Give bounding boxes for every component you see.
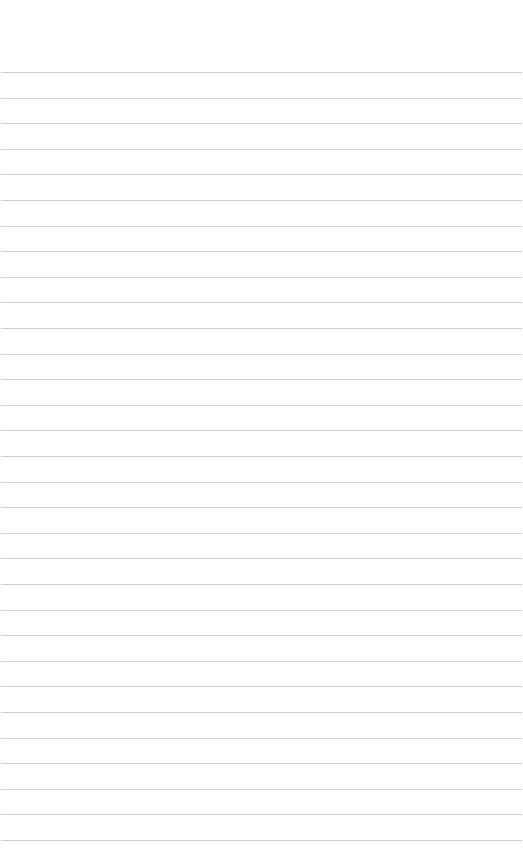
ruled-line (1, 72, 522, 73)
ruled-line (1, 763, 522, 764)
ruled-line (1, 814, 522, 815)
ruled-line (1, 149, 522, 150)
ruled-line (1, 789, 522, 790)
ruled-line (1, 482, 522, 483)
ruled-line (1, 661, 522, 662)
ruled-line (1, 405, 522, 406)
ruled-line (1, 610, 522, 611)
ruled-line (1, 226, 522, 227)
ruled-line (1, 277, 522, 278)
ruled-line (1, 430, 522, 431)
ruled-line (1, 200, 522, 201)
ruled-line (1, 251, 522, 252)
ruled-line (1, 328, 522, 329)
ruled-line (1, 174, 522, 175)
ruled-line (1, 840, 522, 841)
ruled-line (1, 712, 522, 713)
ruled-line (1, 686, 522, 687)
ruled-line (1, 533, 522, 534)
ruled-line (1, 507, 522, 508)
ruled-line (1, 558, 522, 559)
ruled-line (1, 738, 522, 739)
ruled-line (1, 635, 522, 636)
ruled-paper-page (0, 0, 523, 861)
ruled-line (1, 584, 522, 585)
ruled-line (1, 302, 522, 303)
ruled-line (1, 123, 522, 124)
ruled-line (1, 456, 522, 457)
ruled-line (1, 354, 522, 355)
ruled-line (1, 379, 522, 380)
ruled-line (1, 98, 522, 99)
